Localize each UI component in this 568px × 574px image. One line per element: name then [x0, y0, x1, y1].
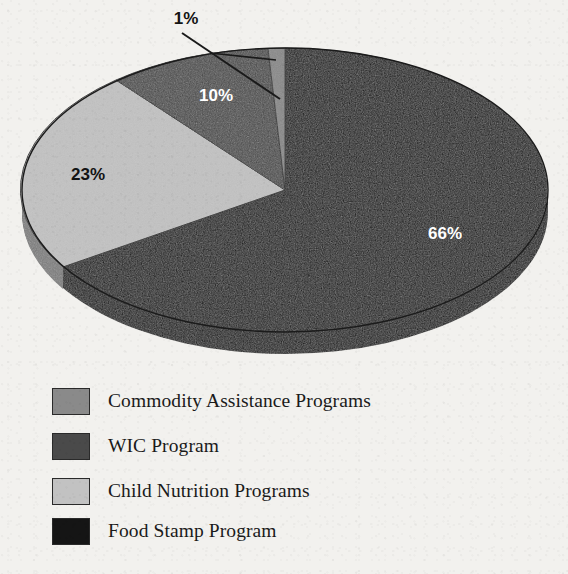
pie-chart-figure: 1% 10% 23% 66% Commodity Assistance Prog…: [0, 0, 568, 574]
legend-item-child-nutrition-programs: Child Nutrition Programs: [52, 476, 310, 506]
legend-item-commodity-assistance-programs: Commodity Assistance Programs: [52, 386, 371, 416]
legend-swatch-food-stamp-program: [52, 518, 90, 545]
legend-label-child-nutrition-programs: Child Nutrition Programs: [108, 480, 310, 502]
slice-label-food-stamp-program: 66%: [428, 224, 462, 243]
legend-item-wic-program: WIC Program: [52, 431, 219, 461]
legend-label-commodity-assistance-programs: Commodity Assistance Programs: [108, 390, 371, 412]
slice-label-child-nutrition-programs: 23%: [71, 165, 105, 184]
legend-swatch-commodity-assistance-programs: [52, 388, 90, 415]
legend-label-food-stamp-program: Food Stamp Program: [108, 520, 277, 542]
legend-item-food-stamp-program: Food Stamp Program: [52, 516, 277, 546]
legend-swatch-child-nutrition-programs: [52, 478, 90, 505]
legend-swatch-wic-program: [52, 433, 90, 460]
legend-label-wic-program: WIC Program: [108, 435, 219, 457]
slice-label-wic-program: 10%: [199, 86, 233, 105]
slice-label-commodity-assistance-programs: 1%: [174, 9, 199, 28]
